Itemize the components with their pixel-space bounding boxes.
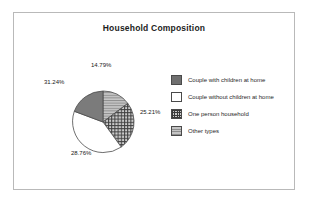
pie-chart: 14.79% 25.21% 28.76% 31.24% bbox=[44, 61, 174, 171]
legend-swatch-icon bbox=[171, 75, 182, 85]
legend-item-one-person-household: One person household bbox=[171, 105, 291, 122]
pie-label-one-person-household: 25.21% bbox=[140, 109, 160, 115]
legend-label: Couple without children at home bbox=[188, 94, 274, 100]
chart-frame: Household Composition bbox=[13, 12, 295, 190]
legend-label: Other types bbox=[188, 128, 219, 134]
legend-item-other-types: Other types bbox=[171, 122, 291, 139]
chart-title: Household Composition bbox=[14, 23, 294, 33]
pie-label-couple-with-children: 31.24% bbox=[44, 79, 64, 85]
legend-swatch-icon bbox=[171, 92, 182, 102]
legend-swatch-icon bbox=[171, 109, 182, 119]
chart-legend: Couple with children at home Couple with… bbox=[171, 71, 291, 139]
legend-label: Couple with children at home bbox=[188, 77, 265, 83]
pie-label-other-types: 14.79% bbox=[91, 62, 111, 68]
pie-label-couple-without-children: 28.76% bbox=[71, 150, 91, 156]
pie-svg bbox=[44, 61, 174, 171]
legend-item-couple-without-children: Couple without children at home bbox=[171, 88, 291, 105]
legend-label: One person household bbox=[188, 111, 249, 117]
legend-item-couple-with-children: Couple with children at home bbox=[171, 71, 291, 88]
legend-swatch-icon bbox=[171, 126, 182, 136]
